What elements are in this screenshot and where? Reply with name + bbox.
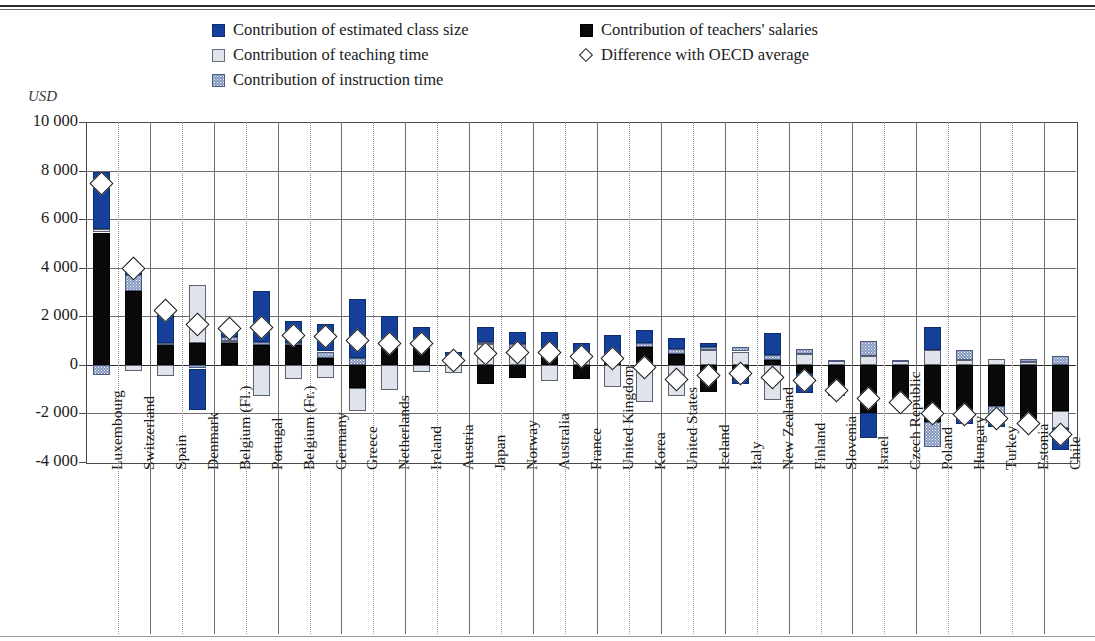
x-axis-label: Ireland xyxy=(427,300,445,470)
x-axis-separator xyxy=(118,462,119,634)
x-axis-separator xyxy=(884,462,885,634)
x-axis-label: France xyxy=(587,300,605,470)
y-axis-tick-label: 0 xyxy=(0,354,78,374)
x-axis-label: Portugal xyxy=(268,300,286,470)
x-axis-labels: LuxembourgSwitzerlandSpainDenmarkBelgium… xyxy=(86,462,1076,641)
x-axis-label: Germany xyxy=(332,300,350,470)
x-axis-separator xyxy=(693,462,694,634)
x-axis-separator xyxy=(341,462,342,634)
y-axis-tick-labels: 10 0008 0006 0004 0002 0000-2 000-4 000 xyxy=(0,122,78,462)
legend-label-instruction-time: Contribution of instruction time xyxy=(233,70,443,89)
x-axis-separator xyxy=(501,462,502,634)
x-axis-separator xyxy=(629,462,630,634)
x-axis-separator xyxy=(852,462,853,634)
x-axis-label: Israel xyxy=(874,300,892,470)
x-axis-separator xyxy=(150,462,151,634)
x-axis-label: Japan xyxy=(491,300,509,470)
x-axis-separator xyxy=(661,462,662,634)
x-axis-label: Norway xyxy=(523,300,541,470)
x-axis-separator xyxy=(789,462,790,634)
legend-swatch-salaries-icon xyxy=(580,24,593,37)
legend-item-class-size: Contribution of estimated class size xyxy=(212,20,469,39)
x-axis-separator xyxy=(916,462,917,634)
x-axis-separator xyxy=(948,462,949,634)
x-axis-label: Czech Republic xyxy=(906,300,924,470)
header-rule-top xyxy=(0,5,1095,7)
y-axis-tick-mark xyxy=(79,122,86,123)
legend-label-difference: Difference with OECD average xyxy=(601,45,809,64)
x-axis-label: Finland xyxy=(811,300,829,470)
x-axis-separator xyxy=(533,462,534,634)
x-axis-label: Spain xyxy=(172,300,190,470)
x-axis-label: Slovenia xyxy=(842,300,860,470)
legend-item-teaching-time: Contribution of teaching time xyxy=(212,45,429,64)
x-axis-separator xyxy=(310,462,311,634)
legend-swatch-teaching-time-icon xyxy=(212,49,225,62)
legend-item-instruction-time: Contribution of instruction time xyxy=(212,70,443,89)
x-axis-separator xyxy=(405,462,406,634)
legend-label-teaching-time: Contribution of teaching time xyxy=(233,45,429,64)
x-axis-separator xyxy=(373,462,374,634)
x-axis-separator xyxy=(980,462,981,634)
legend-item-salaries: Contribution of teachers' salaries xyxy=(580,20,818,39)
x-axis-label: Hungary xyxy=(970,300,988,470)
y-axis-tick-mark xyxy=(79,462,86,463)
legend-label-class-size: Contribution of estimated class size xyxy=(233,20,469,39)
plot-area xyxy=(86,122,1076,462)
x-axis-label: Luxembourg xyxy=(108,300,126,470)
x-axis-separator xyxy=(1044,462,1045,634)
x-axis-separator xyxy=(437,462,438,634)
bar-segment-teaching xyxy=(93,229,110,233)
y-axis-unit-label: USD xyxy=(28,88,57,105)
x-axis-label: Austria xyxy=(459,300,477,470)
x-axis-separator xyxy=(182,462,183,634)
y-axis-tick-label: 6 000 xyxy=(0,208,78,228)
x-axis-separator xyxy=(246,462,247,634)
y-axis-tick-label: -2 000 xyxy=(0,402,78,422)
y-axis-tick-mark xyxy=(79,365,86,366)
legend-swatch-difference-diamond-icon xyxy=(580,49,593,62)
chart-page: Contribution of estimated class size Con… xyxy=(0,0,1095,641)
x-axis-label: Greece xyxy=(363,300,381,470)
legend-swatch-class-size-icon xyxy=(212,24,225,37)
y-axis-tick-mark xyxy=(79,171,86,172)
y-axis-tick-label: 4 000 xyxy=(0,257,78,277)
y-axis-tick-label: -4 000 xyxy=(0,451,78,471)
x-axis-label: Korea xyxy=(651,300,669,470)
x-axis-label: Netherlands xyxy=(395,300,413,470)
x-axis-separator xyxy=(597,462,598,634)
chart-legend: Contribution of estimated class size Con… xyxy=(0,20,1095,92)
y-axis-tick-mark xyxy=(79,316,86,317)
x-axis-label: Belgium (Fr.) xyxy=(300,300,318,470)
x-axis-separator xyxy=(469,462,470,634)
x-axis-label: Switzerland xyxy=(140,300,158,470)
x-axis-label: New Zealand xyxy=(779,300,797,470)
x-axis-separator xyxy=(725,462,726,634)
x-axis-label: Poland xyxy=(938,300,956,470)
x-axis-separator xyxy=(1012,462,1013,634)
x-axis-separator xyxy=(757,462,758,634)
legend-item-difference: Difference with OECD average xyxy=(580,45,809,64)
x-axis-label: Chile xyxy=(1066,300,1084,470)
x-axis-separator xyxy=(278,462,279,634)
y-axis-tick-label: 2 000 xyxy=(0,305,78,325)
legend-label-salaries: Contribution of teachers' salaries xyxy=(601,20,818,39)
x-axis-label: Estonia xyxy=(1034,300,1052,470)
y-axis-tick-label: 10 000 xyxy=(0,111,78,131)
x-axis-separator xyxy=(565,462,566,634)
x-axis-label: Italy xyxy=(747,300,765,470)
x-axis-label: Belgium (Fl.) xyxy=(236,300,254,470)
x-axis-label: Denmark xyxy=(204,300,222,470)
y-axis-tick-mark xyxy=(79,413,86,414)
x-axis-label: Iceland xyxy=(715,300,733,470)
y-axis-tick-label: 8 000 xyxy=(0,160,78,180)
x-axis-label: Turkey xyxy=(1002,300,1020,470)
x-axis-separator xyxy=(214,462,215,634)
x-axis-label: Australia xyxy=(555,300,573,470)
y-axis-tick-mark xyxy=(79,268,86,269)
x-axis-label: United States xyxy=(683,300,701,470)
x-axis-separator xyxy=(821,462,822,634)
legend-swatch-instruction-time-icon xyxy=(212,74,225,87)
header-rule-bottom xyxy=(0,9,1095,10)
x-axis-label: United Kingdom xyxy=(619,300,637,470)
